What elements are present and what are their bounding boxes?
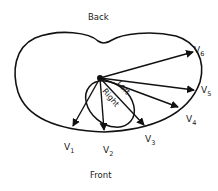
svg-text:V3: V3	[145, 134, 155, 147]
label-back: Back	[88, 12, 109, 22]
svg-text:V5: V5	[201, 85, 211, 98]
thorax-outline	[15, 32, 202, 132]
lead-label-v1: V1	[64, 142, 74, 155]
chest-lead-diagram: Back Front Left Right V1 V2 V3 V4 V5 V6	[0, 0, 218, 191]
vector-v6	[100, 52, 193, 78]
lead-label-v3: V3	[145, 134, 155, 147]
svg-text:V1: V1	[64, 142, 74, 155]
lead-label-v5: V5	[201, 85, 211, 98]
svg-text:V4: V4	[186, 114, 196, 127]
svg-text:V2: V2	[103, 145, 113, 158]
label-right: Right	[100, 87, 120, 109]
label-front: Front	[90, 170, 112, 180]
lead-label-v4: V4	[186, 114, 196, 127]
lead-label-v2: V2	[103, 145, 113, 158]
